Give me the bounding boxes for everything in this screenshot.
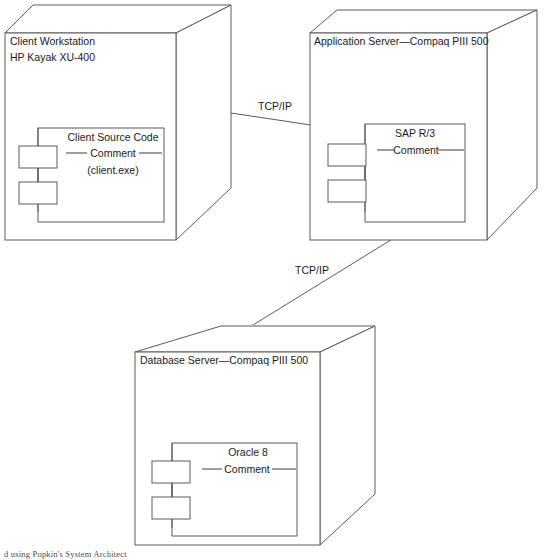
node-database-server[interactable]: Database Server—Compaq PIII 500 Oracle 8… <box>135 326 375 545</box>
component-tab-lower <box>328 180 366 202</box>
node-title-line1: Database Server—Compaq PIII 500 <box>140 354 308 366</box>
connection-appserver-to-dbserver[interactable]: TCP/IP <box>253 238 394 325</box>
component-comment-label: Comment <box>393 144 439 156</box>
node-title-line1: Client Workstation <box>10 35 95 47</box>
node-client-workstation[interactable]: Client Workstation HP Kayak XU-400 Clien… <box>5 5 231 240</box>
connection-label-tcpip-1: TCP/IP <box>258 100 292 112</box>
component-tab-upper <box>152 461 190 483</box>
component-name: Client Source Code <box>67 131 158 143</box>
component-name: SAP R/3 <box>395 127 435 139</box>
connection-line <box>253 238 394 325</box>
node-side-face <box>320 326 375 545</box>
component-tab-lower <box>19 182 57 204</box>
component-tab-lower <box>152 497 190 519</box>
node-side-face <box>487 10 537 240</box>
node-side-face <box>176 5 231 240</box>
figure-caption: d using Popkin's System Architect <box>4 549 127 559</box>
component-comment-label: Comment <box>90 147 136 159</box>
component-subtitle: (client.exe) <box>87 164 138 176</box>
connection-label-tcpip-2: TCP/IP <box>295 264 329 276</box>
component-comment-label: Comment <box>224 463 270 475</box>
deployment-diagram: TCP/IP TCP/IP Client Workstation HP Kaya… <box>0 0 549 560</box>
component-tab-upper <box>19 146 57 168</box>
node-application-server[interactable]: Application Server—Compaq PIII 500 SAP R… <box>310 10 537 240</box>
diagram-canvas: TCP/IP TCP/IP Client Workstation HP Kaya… <box>0 0 549 560</box>
component-tab-upper <box>328 144 366 166</box>
node-title-line1: Application Server—Compaq PIII 500 <box>314 35 489 47</box>
component-name: Oracle 8 <box>228 446 268 458</box>
node-title-line2: HP Kayak XU-400 <box>10 51 95 63</box>
